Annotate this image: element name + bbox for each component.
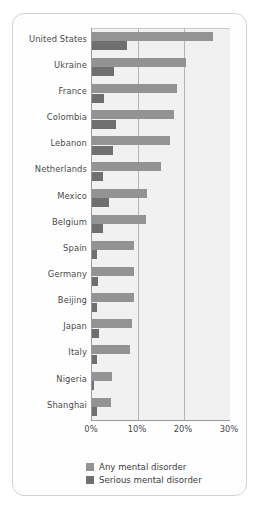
bar-colombia-serious	[92, 120, 116, 129]
legend-item-any: Any mental disorder	[86, 460, 260, 473]
bar-ukraine-serious	[92, 67, 114, 76]
y-label-belgium: Belgium	[14, 217, 87, 227]
y-label-united-states: United States	[14, 34, 87, 44]
legend-label-any: Any mental disorder	[99, 462, 186, 472]
y-label-netherlands: Netherlands	[14, 164, 87, 174]
chart-legend: Any mental disorder Serious mental disor…	[0, 460, 260, 486]
bar-mexico-serious	[92, 198, 109, 207]
bar-france-serious	[92, 94, 104, 103]
bar-germany-serious	[92, 277, 98, 286]
bar-netherlands-serious	[92, 172, 103, 181]
bar-italy-serious	[92, 355, 97, 364]
bar-lebanon-any	[92, 136, 170, 145]
bar-spain-any	[92, 241, 134, 250]
bar-japan-serious	[92, 329, 99, 338]
y-label-shanghai: Shanghai	[14, 400, 87, 410]
x-tick-30pct: 30%	[220, 424, 239, 434]
y-label-spain: Spain	[14, 243, 87, 253]
x-tick-0pct: 0%	[84, 424, 97, 434]
x-axis-tick-labels: 0%10%20%30%	[0, 424, 260, 438]
y-label-beijing: Beijing	[14, 295, 87, 305]
bar-belgium-serious	[92, 224, 103, 233]
y-label-germany: Germany	[14, 269, 87, 279]
y-axis-category-labels: United StatesUkraineFranceColombiaLebano…	[14, 28, 87, 420]
plot-area	[91, 28, 230, 421]
bar-shanghai-serious	[92, 407, 97, 416]
bar-beijing-serious	[92, 303, 97, 312]
y-label-mexico: Mexico	[14, 191, 87, 201]
y-label-france: France	[14, 86, 87, 96]
bar-netherlands-any	[92, 162, 161, 171]
bar-united-states-any	[92, 32, 213, 41]
bar-germany-any	[92, 267, 134, 276]
bar-shanghai-any	[92, 398, 111, 407]
bar-ukraine-any	[92, 58, 186, 67]
bar-mexico-any	[92, 189, 147, 198]
bar-nigeria-any	[92, 372, 112, 381]
x-tick-10pct: 10%	[128, 424, 147, 434]
bar-belgium-any	[92, 215, 146, 224]
y-label-italy: Italy	[14, 347, 87, 357]
y-label-colombia: Colombia	[14, 112, 87, 122]
bar-nigeria-serious	[92, 381, 94, 390]
legend-item-serious: Serious mental disorder	[86, 473, 260, 486]
bar-italy-any	[92, 345, 130, 354]
y-label-lebanon: Lebanon	[14, 138, 87, 148]
bar-japan-any	[92, 319, 132, 328]
y-label-nigeria: Nigeria	[14, 374, 87, 384]
gridline-20	[184, 28, 185, 420]
legend-swatch-any-icon	[86, 463, 94, 471]
bar-spain-serious	[92, 250, 97, 259]
bar-france-any	[92, 84, 177, 93]
y-label-ukraine: Ukraine	[14, 60, 87, 70]
bar-beijing-any	[92, 293, 134, 302]
legend-swatch-serious-icon	[86, 476, 94, 484]
legend-label-serious: Serious mental disorder	[99, 475, 202, 485]
x-tick-20pct: 20%	[174, 424, 193, 434]
plot-top-border	[92, 28, 230, 29]
bar-united-states-serious	[92, 41, 127, 50]
bar-lebanon-serious	[92, 146, 113, 155]
bar-colombia-any	[92, 110, 174, 119]
bar-chart: United StatesUkraineFranceColombiaLebano…	[0, 0, 260, 516]
y-label-japan: Japan	[14, 321, 87, 331]
